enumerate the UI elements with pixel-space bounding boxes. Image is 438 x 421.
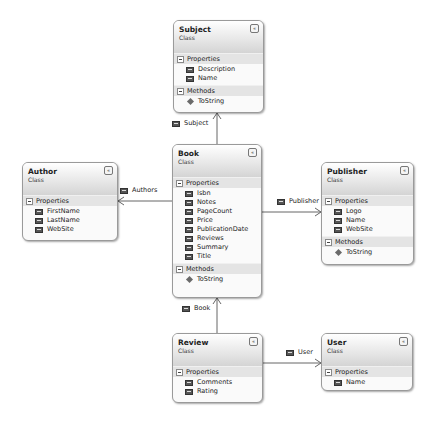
minus-box-icon[interactable]: [177, 56, 184, 63]
class-publisher[interactable]: Publisher Class « Properties Logo Name W…: [321, 162, 414, 265]
section-properties[interactable]: Properties: [23, 195, 117, 206]
class-stereotype: Class: [327, 347, 412, 355]
section-properties[interactable]: Properties: [322, 195, 413, 206]
member-item[interactable]: ToString: [174, 97, 263, 106]
minus-box-icon[interactable]: [176, 266, 183, 273]
class-stereotype: Class: [28, 176, 117, 184]
property-icon: [334, 209, 342, 215]
property-icon: [35, 218, 43, 224]
property-icon: [120, 188, 128, 194]
member-item[interactable]: PublicationDate: [173, 225, 261, 234]
method-icon: [186, 99, 194, 105]
section-properties[interactable]: Properties: [173, 177, 261, 188]
class-review[interactable]: Review Class « Properties Comments Ratin…: [172, 333, 263, 403]
member-item[interactable]: Isbn: [173, 189, 261, 198]
class-stereotype: Class: [179, 34, 263, 42]
collapse-icon[interactable]: «: [104, 166, 113, 175]
member-item[interactable]: Title: [173, 252, 261, 261]
section-methods[interactable]: Methods: [173, 263, 261, 274]
class-header: Publisher Class «: [322, 163, 413, 195]
section-properties[interactable]: Properties: [174, 53, 263, 64]
property-icon: [185, 389, 193, 395]
minus-box-icon[interactable]: [177, 88, 184, 95]
section-properties[interactable]: Properties: [173, 366, 262, 377]
property-icon: [185, 254, 193, 260]
collapse-icon[interactable]: «: [400, 166, 409, 175]
minus-box-icon[interactable]: [325, 239, 332, 246]
member-item[interactable]: Logo: [322, 207, 413, 216]
property-icon: [185, 227, 193, 233]
property-icon: [35, 209, 43, 215]
class-header: Author Class «: [23, 163, 117, 195]
assoc-label-book: Book: [182, 304, 210, 313]
minus-box-icon[interactable]: [176, 180, 183, 187]
member-item[interactable]: Summary: [173, 243, 261, 252]
minus-box-icon[interactable]: [325, 369, 332, 376]
member-item[interactable]: Name: [322, 216, 413, 225]
property-icon: [186, 76, 194, 82]
assoc-label-user: User: [286, 348, 313, 357]
property-icon: [277, 199, 285, 205]
member-item[interactable]: WebSite: [23, 225, 117, 234]
property-icon: [182, 306, 190, 312]
assoc-label-subject: Subject: [172, 119, 208, 128]
property-icon: [334, 380, 342, 386]
member-item[interactable]: WebSite: [322, 225, 413, 234]
property-icon: [185, 200, 193, 206]
property-icon: [185, 209, 193, 215]
collapse-icon[interactable]: «: [248, 148, 257, 157]
method-icon: [334, 250, 342, 256]
class-stereotype: Class: [178, 347, 262, 355]
minus-box-icon[interactable]: [325, 198, 332, 205]
class-header: User Class «: [322, 334, 412, 366]
class-stereotype: Class: [327, 176, 413, 184]
class-book[interactable]: Book Class « Properties Isbn Notes PageC…: [172, 144, 262, 298]
class-subject[interactable]: Subject Class « Properties Description N…: [173, 20, 264, 113]
property-icon: [185, 245, 193, 251]
member-item[interactable]: Name: [174, 74, 263, 83]
member-item[interactable]: FirstName: [23, 207, 117, 216]
class-header: Review Class «: [173, 334, 262, 366]
member-item[interactable]: Notes: [173, 198, 261, 207]
assoc-label-authors: Authors: [120, 186, 157, 195]
section-methods[interactable]: Methods: [322, 236, 413, 247]
member-item[interactable]: LastName: [23, 216, 117, 225]
member-item[interactable]: ToString: [173, 275, 261, 284]
property-icon: [35, 227, 43, 233]
assoc-label-publisher: Publisher: [277, 197, 319, 206]
property-icon: [172, 121, 180, 127]
class-author[interactable]: Author Class « Properties FirstName Last…: [22, 162, 118, 241]
member-item[interactable]: Price: [173, 216, 261, 225]
class-header: Subject Class «: [174, 21, 263, 53]
class-header: Book Class «: [173, 145, 261, 177]
property-icon: [186, 67, 194, 73]
method-icon: [185, 277, 193, 283]
member-item[interactable]: Reviews: [173, 234, 261, 243]
class-stereotype: Class: [178, 158, 261, 166]
property-icon: [185, 380, 193, 386]
minus-box-icon[interactable]: [26, 198, 33, 205]
property-icon: [334, 227, 342, 233]
section-methods[interactable]: Methods: [174, 85, 263, 96]
member-item[interactable]: Rating: [173, 387, 262, 396]
collapse-icon[interactable]: «: [249, 337, 258, 346]
member-item[interactable]: Description: [174, 65, 263, 74]
property-icon: [185, 236, 193, 242]
class-user[interactable]: User Class « Properties Name: [321, 333, 413, 391]
property-icon: [286, 350, 294, 356]
property-icon: [185, 218, 193, 224]
member-item[interactable]: ToString: [322, 248, 413, 257]
section-properties[interactable]: Properties: [322, 366, 412, 377]
property-icon: [334, 218, 342, 224]
member-item[interactable]: Comments: [173, 378, 262, 387]
collapse-icon[interactable]: «: [399, 337, 408, 346]
member-item[interactable]: Name: [322, 378, 412, 387]
collapse-icon[interactable]: «: [250, 24, 259, 33]
minus-box-icon[interactable]: [176, 369, 183, 376]
property-icon: [185, 191, 193, 197]
member-item[interactable]: PageCount: [173, 207, 261, 216]
